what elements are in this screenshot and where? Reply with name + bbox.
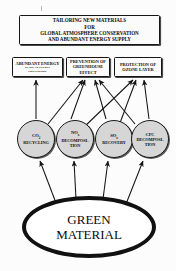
root-label-line-1: GREEN [67,212,110,227]
scan-artifact [41,6,42,11]
edge-green-to-cfc [126,161,143,204]
title-box: TAILORING NEW MATERIALS FOR GLOBAL ATMOS… [19,15,160,45]
outcome-box-abundant-energy: ABUNDANT ENERGY BY SOLAR ENERGY CONVERSI… [12,57,63,77]
formula-subscript: x [78,133,79,137]
outcome-label-line-3: EFFECT [79,70,96,75]
circle-label-line-2: TION [145,142,156,147]
circle-label-line-2: TION [70,143,81,148]
root-label-line-2: MATERIAL [56,227,122,242]
edge-sox-to-greenhouse [95,80,106,119]
circle-label-line-1: RECOVERY [102,140,126,145]
edge-cfc-to-ozone [144,80,149,119]
edge-cfc-to-greenhouse [99,80,135,124]
process-circle-co2: CO2 RECYCLING [17,120,55,158]
formula-subscript: x [116,135,117,139]
edge-green-to-nox [74,161,76,199]
edge-sox-to-ozone [120,80,136,123]
process-circle-sox: SOx RECOVERY [95,120,133,158]
title-line-4: AND ABUNDANT ENERGY SUPPLY [48,36,131,42]
circle-formula: SOx [110,133,117,141]
outcome-box-ozone: PROTECTION OF OZONE LAYER [114,57,162,77]
edge-co2-to-greenhouse [48,80,83,124]
circle-formula: CO2 [32,133,40,141]
outcome-sublabel-2: CONVERSION [28,70,46,74]
outcome-box-greenhouse: PREVENTION OF GREENHOUSE EFFECT [66,57,110,77]
edge-green-to-co2 [40,161,56,203]
formula-subscript: 2 [39,135,40,139]
circle-label-line-1: RECYCLING [23,140,48,145]
process-circle-nox: NOx DECOMPOSI- TION [56,120,94,158]
outcome-label-line-2: OZONE LAYER [122,67,153,72]
circle-formula: NOx [71,130,79,138]
root-node-green-material: GREEN MATERIAL [22,196,156,258]
edge-green-to-sox [103,161,108,199]
diagram-canvas: TAILORING NEW MATERIALS FOR GLOBAL ATMOS… [0,0,176,271]
edge-nox-to-greenhouse [71,80,85,119]
process-circle-cfc: CFC DECOMPOSI- TION [131,120,169,158]
